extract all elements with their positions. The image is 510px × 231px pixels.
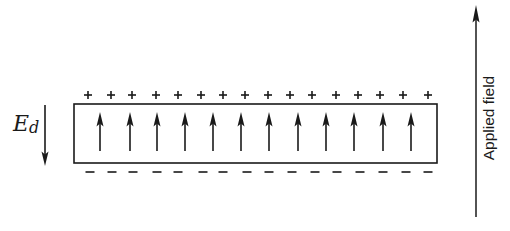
polarization-arrow-icon bbox=[97, 112, 104, 151]
positive-surface-charges bbox=[84, 91, 432, 99]
polarization-arrow-icon bbox=[154, 112, 161, 151]
polarization-arrow-icon bbox=[127, 112, 134, 151]
plus-sign-icon bbox=[376, 91, 384, 99]
plus-sign-icon bbox=[424, 91, 432, 99]
plus-sign-icon bbox=[219, 91, 227, 99]
down-arrow-icon bbox=[42, 105, 49, 166]
plus-sign-icon bbox=[286, 91, 294, 99]
diagram-canvas bbox=[0, 0, 510, 231]
up-arrow-icon bbox=[473, 5, 480, 217]
polarization-arrow-icon bbox=[295, 112, 302, 151]
polarization-arrow-icon bbox=[323, 112, 330, 151]
ed-label-subscript: d bbox=[29, 118, 39, 137]
applied-field-arrow-icon bbox=[473, 5, 480, 217]
plus-sign-icon bbox=[264, 91, 272, 99]
plus-sign-icon bbox=[152, 91, 160, 99]
applied-field-label: Applied field bbox=[480, 76, 498, 160]
polarization-arrow-icon bbox=[351, 112, 358, 151]
plus-sign-icon bbox=[332, 91, 340, 99]
polarization-arrows bbox=[97, 112, 415, 151]
plus-sign-icon bbox=[84, 91, 92, 99]
plus-sign-icon bbox=[128, 91, 136, 99]
plus-sign-icon bbox=[107, 91, 115, 99]
ed-label-main: E bbox=[13, 111, 29, 136]
plus-sign-icon bbox=[399, 91, 407, 99]
plus-sign-icon bbox=[354, 91, 362, 99]
polarization-arrow-icon bbox=[238, 112, 245, 151]
plus-sign-icon bbox=[174, 91, 182, 99]
polarization-arrow-icon bbox=[182, 112, 189, 151]
plus-sign-icon bbox=[241, 91, 249, 99]
polarization-arrow-icon bbox=[408, 112, 415, 151]
polarization-arrow-icon bbox=[266, 112, 273, 151]
depolarization-field-label: Ed bbox=[13, 113, 39, 135]
polarization-arrow-icon bbox=[210, 112, 217, 151]
plus-sign-icon bbox=[197, 91, 205, 99]
depolarization-field-arrow-icon bbox=[42, 105, 49, 166]
plus-sign-icon bbox=[308, 91, 316, 99]
polarization-arrow-icon bbox=[380, 112, 387, 151]
